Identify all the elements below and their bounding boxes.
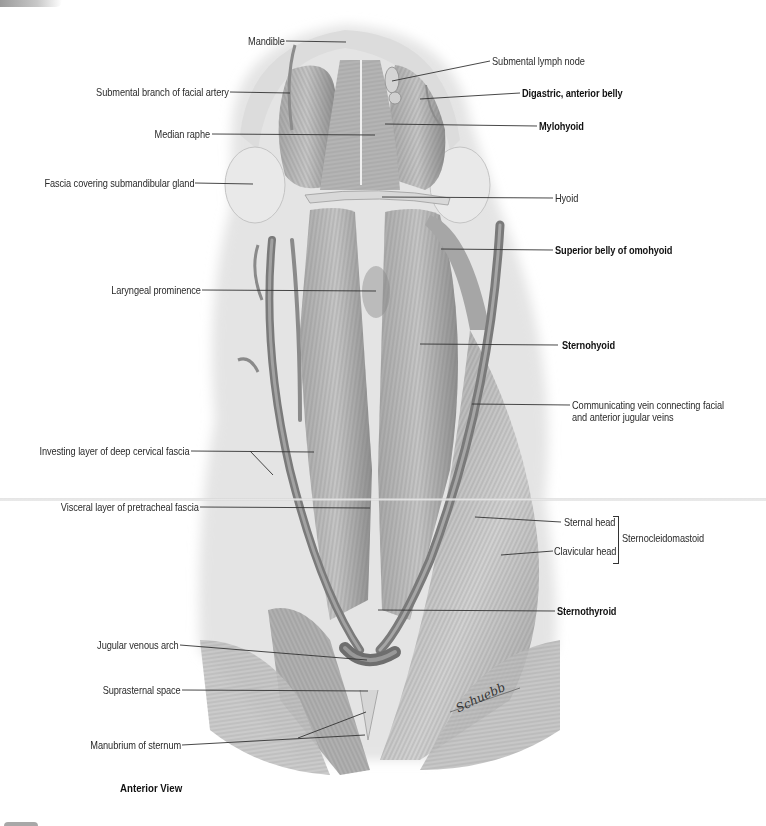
label-communicating-vein-line1: Communicating vein connecting facial — [572, 399, 724, 411]
label-submental-branch-facial-artery: Submental branch of facial artery — [96, 86, 229, 98]
label-submental-lymph-node: Submental lymph node — [492, 55, 585, 67]
label-sternohyoid: Sternohyoid — [562, 339, 615, 351]
label-digastric-anterior-belly: Digastric, anterior belly — [522, 87, 623, 99]
label-investing-layer-deep-cervical-fascia: Investing layer of deep cervical fascia — [40, 445, 190, 457]
label-hyoid: Hyoid — [555, 192, 578, 204]
label-median-raphe: Median raphe — [155, 128, 210, 140]
label-visceral-layer-pretracheal-fascia: Visceral layer of pretracheal fascia — [61, 501, 199, 513]
label-sternothyroid: Sternothyroid — [557, 605, 616, 617]
label-sternocleidomastoid: Sternocleidomastoid — [622, 532, 704, 544]
label-sternal-head: Sternal head — [564, 516, 615, 528]
label-mylohyoid: Mylohyoid — [539, 120, 584, 132]
bottom-edge-tab — [4, 822, 38, 826]
label-communicating-vein-line2: and anterior jugular veins — [572, 411, 673, 423]
label-fascia-submandibular-gland: Fascia covering submandibular gland — [44, 177, 194, 189]
label-laryngeal-prominence: Laryngeal prominence — [111, 284, 201, 296]
label-jugular-venous-arch: Jugular venous arch — [97, 639, 179, 651]
view-caption: Anterior View — [120, 782, 182, 794]
label-manubrium-of-sternum: Manubrium of sternum — [90, 739, 181, 751]
label-clavicular-head: Clavicular head — [554, 545, 616, 557]
label-suprasternal-space: Suprasternal space — [103, 684, 181, 696]
label-mandible: Mandible — [248, 35, 285, 47]
label-superior-belly-omohyoid: Superior belly of omohyoid — [555, 244, 672, 256]
